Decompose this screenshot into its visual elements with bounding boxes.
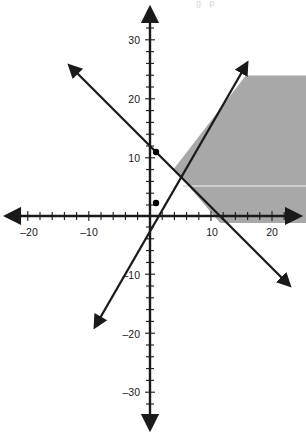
y-tick-label-30: 30 <box>128 34 140 46</box>
page-header-fragment: g p <box>196 0 218 8</box>
graph-canvas: –20 –10 10 20 30 20 10 –10 –20 –30 <box>0 0 306 437</box>
y-tick-label-neg10: –10 <box>122 269 140 281</box>
coordinate-graph: g p <box>0 0 306 437</box>
x-tick-label-neg10: –10 <box>80 226 98 238</box>
plot-point-lower <box>153 200 159 206</box>
y-tick-label-neg30: –30 <box>122 386 140 398</box>
y-tick-label-neg20: –20 <box>122 328 140 340</box>
y-tick-label-20: 20 <box>128 93 140 105</box>
shaded-solution-region <box>174 76 306 224</box>
x-tick-label-20: 20 <box>266 226 278 238</box>
x-tick-label-10: 10 <box>206 226 218 238</box>
x-tick-label-neg20: –20 <box>20 226 38 238</box>
plot-point-upper <box>153 149 159 155</box>
y-tick-label-10: 10 <box>128 152 140 164</box>
